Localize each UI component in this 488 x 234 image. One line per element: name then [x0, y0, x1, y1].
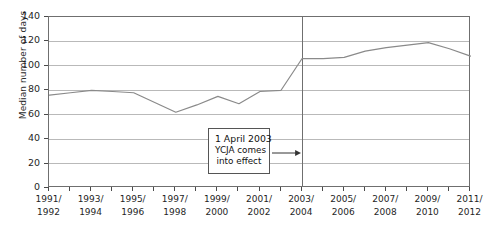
- x-tick-label-top: 1993/: [68, 193, 114, 206]
- x-tick-label-top: 1999/: [194, 193, 240, 206]
- x-tick-label-top: 2003/: [278, 193, 324, 206]
- x-tick-mark: [174, 187, 175, 191]
- x-tick-label-bottom: 1994: [68, 206, 114, 219]
- x-tick-mark: [364, 187, 365, 191]
- annotation-box: 1 April 2003 YCJA comes into effect: [208, 128, 270, 174]
- x-tick-mark: [132, 187, 133, 191]
- x-tick-label-top: 1997/: [152, 193, 198, 206]
- x-tick-label-top: 2001/: [236, 193, 282, 206]
- x-tick-mark: [301, 187, 302, 191]
- x-tick-label: 2001/2002: [236, 193, 282, 218]
- x-tick-label-bottom: 2002: [236, 206, 282, 219]
- x-tick-label-top: 1991/: [26, 193, 72, 206]
- annotation-line-3: into effect: [215, 156, 263, 168]
- x-tick-label: 1999/2000: [194, 193, 240, 218]
- x-tick-mark: [427, 187, 428, 191]
- x-tick-mark: [406, 187, 407, 191]
- x-tick-label: 2003/2004: [278, 193, 324, 218]
- x-tick-mark: [195, 187, 196, 191]
- x-tick-mark: [469, 187, 470, 191]
- annotation-line-2: YCJA comes: [215, 145, 263, 157]
- x-tick-label: 1997/1998: [152, 193, 198, 218]
- x-tick-label-top: 2009/: [404, 193, 450, 206]
- x-tick-mark: [385, 187, 386, 191]
- x-tick-label-top: 2011/: [447, 193, 488, 206]
- annotation-line-1: 1 April 2003: [215, 133, 263, 145]
- x-tick-label: 2009/2010: [404, 193, 450, 218]
- x-tick-label: 2005/2006: [320, 193, 366, 218]
- x-tick-label-top: 2007/: [362, 193, 408, 206]
- right-arrow-icon: [272, 148, 301, 158]
- x-tick-mark: [69, 187, 70, 191]
- x-tick-label: 2007/2008: [362, 193, 408, 218]
- y-tick-label: 20: [6, 157, 40, 168]
- x-tick-mark: [259, 187, 260, 191]
- x-tick-label-bottom: 2008: [362, 206, 408, 219]
- x-tick-label-bottom: 2012: [447, 206, 488, 219]
- x-tick-mark: [48, 187, 49, 191]
- x-tick-label-bottom: 1992: [26, 206, 72, 219]
- x-tick-mark: [322, 187, 323, 191]
- x-tick-label-bottom: 2000: [194, 206, 240, 219]
- x-tick-mark: [111, 187, 112, 191]
- x-tick-label: 1993/1994: [68, 193, 114, 218]
- x-tick-label: 2011/2012: [447, 193, 488, 218]
- series-line: [50, 43, 471, 113]
- x-tick-label-bottom: 2006: [320, 206, 366, 219]
- x-tick-label-bottom: 1996: [110, 206, 156, 219]
- x-tick-mark: [153, 187, 154, 191]
- x-tick-mark: [280, 187, 281, 191]
- x-tick-label: 1991/1992: [26, 193, 72, 218]
- x-tick-mark: [90, 187, 91, 191]
- x-tick-label-bottom: 2010: [404, 206, 450, 219]
- x-tick-mark: [448, 187, 449, 191]
- x-tick-label-top: 2005/: [320, 193, 366, 206]
- x-tick-label: 1995/1996: [110, 193, 156, 218]
- y-axis-title: Median number of days: [18, 0, 28, 140]
- x-tick-mark: [237, 187, 238, 191]
- x-tick-label-top: 1995/: [110, 193, 156, 206]
- x-tick-label-bottom: 1998: [152, 206, 198, 219]
- x-tick-label-bottom: 2004: [278, 206, 324, 219]
- x-tick-mark: [343, 187, 344, 191]
- y-tick-label: 0: [6, 181, 40, 192]
- x-tick-mark: [216, 187, 217, 191]
